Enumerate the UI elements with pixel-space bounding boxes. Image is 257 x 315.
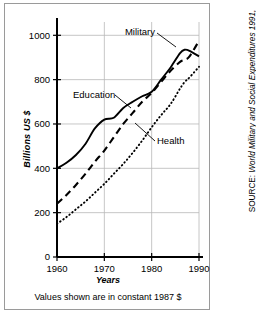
svg-text:1990: 1990 xyxy=(188,263,209,274)
chart-plot-area: 020040060080010001960197019801990 Milita… xyxy=(5,4,211,311)
series-label-military: Military xyxy=(125,26,155,37)
svg-text:600: 600 xyxy=(34,118,50,129)
svg-text:1970: 1970 xyxy=(94,263,115,274)
figure-caption: Values shown are in constant 1987 $ xyxy=(5,292,211,302)
axis-tick-labels: 020040060080010001960197019801990 xyxy=(29,30,210,274)
y-axis-title: Billions US $ xyxy=(22,99,32,179)
svg-text:1960: 1960 xyxy=(46,263,67,274)
series-annotations: MilitaryEducationHealth xyxy=(73,26,184,146)
series-line-education xyxy=(57,50,199,169)
svg-text:400: 400 xyxy=(34,163,50,174)
data-series xyxy=(57,41,199,224)
source-title: World Military and Social Expenditures 1… xyxy=(248,10,257,173)
svg-text:0: 0 xyxy=(45,251,50,262)
svg-text:800: 800 xyxy=(34,74,50,85)
series-label-education: Education xyxy=(73,89,115,100)
x-axis-title: Years xyxy=(5,275,211,285)
svg-text:1000: 1000 xyxy=(29,30,50,41)
svg-text:1980: 1980 xyxy=(141,263,162,274)
series-line-military xyxy=(57,41,199,204)
svg-text:200: 200 xyxy=(34,207,50,218)
series-label-health: Health xyxy=(157,135,184,146)
figure-frame: 020040060080010001960197019801990 Milita… xyxy=(4,3,210,310)
source-prefix: SOURCE: xyxy=(248,173,257,213)
source-note: SOURCE: World Military and Social Expend… xyxy=(247,4,257,219)
axis-ticks xyxy=(53,35,199,261)
chart-figure: 020040060080010001960197019801990 Milita… xyxy=(0,0,256,315)
